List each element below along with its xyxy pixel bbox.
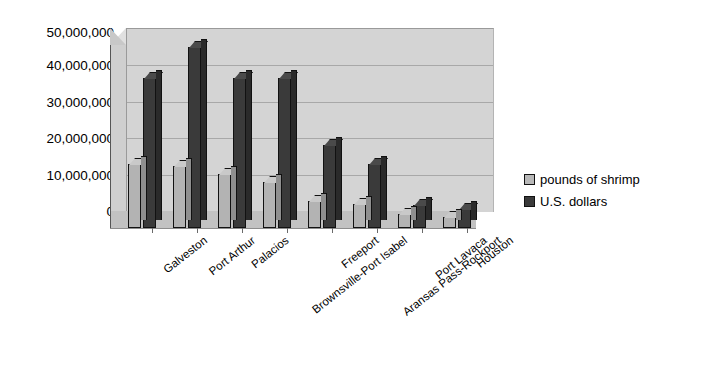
bar-side-face (291, 70, 297, 220)
bar-pounds (443, 217, 456, 228)
plot-floor-front-edge (110, 228, 476, 229)
y-tick-label-5: 0 (18, 205, 114, 218)
bar-group (308, 45, 353, 228)
bar-pounds (218, 174, 231, 228)
bar-side-face (366, 196, 372, 220)
x-axis-label-freeport: Freeport (339, 234, 381, 270)
bar-group (173, 45, 218, 228)
x-axis-label-galveston: Galveston (161, 234, 209, 275)
x-axis-label-houston: Houston (474, 234, 515, 270)
bar-side-face (141, 156, 147, 220)
bar-side-face (411, 206, 417, 220)
y-tick-label-4: 10,000,000 (18, 169, 114, 182)
bar-pounds (398, 214, 411, 228)
x-axis-label-palacios: Palacios (249, 234, 291, 270)
bar-group (218, 45, 263, 228)
y-axis-tick-labels: 50,000,000 40,000,000 30,000,000 20,000,… (18, 26, 114, 218)
bar-side-face (456, 209, 462, 220)
legend-item-us-dollars: U.S. dollars (524, 194, 694, 209)
plot-area (110, 28, 492, 228)
x-axis-label-port-arthur: Port Arthur (207, 234, 258, 277)
bar-side-face (321, 193, 327, 220)
legend-label-us-dollars: U.S. dollars (540, 195, 607, 209)
y-tick-label-1: 40,000,000 (18, 59, 114, 72)
bar-pounds (308, 201, 321, 228)
bar-side-face (276, 174, 282, 220)
light-gray-swatch-icon (524, 174, 535, 185)
bar-pounds (353, 204, 366, 228)
bar-side-face (471, 201, 477, 220)
bar-side-face (381, 156, 387, 220)
x-axis-label-port-lavaca: Port Lavaca (433, 234, 489, 281)
plot-left-wall-bevel (110, 28, 126, 45)
bar-side-face (156, 70, 162, 220)
bar-group (353, 45, 398, 228)
y-tick-label-2: 30,000,000 (18, 96, 114, 109)
legend-item-pounds-of-shrimp: pounds of shrimp (524, 172, 694, 187)
bar-pounds (173, 166, 186, 228)
dark-gray-swatch-icon (524, 196, 535, 207)
bar-pounds (263, 182, 276, 228)
bar-side-face (426, 197, 432, 220)
bar-group (263, 45, 308, 228)
bar-group (443, 45, 488, 228)
bar-side-face (336, 137, 342, 220)
bar-group (128, 45, 173, 228)
legend-label-pounds-of-shrimp: pounds of shrimp (540, 173, 640, 187)
x-axis-label-brownsville-port-isabel: Brownsville-Port Isabel (310, 234, 410, 315)
bar-side-face (201, 39, 207, 220)
chart-legend: pounds of shrimp U.S. dollars (524, 172, 694, 216)
bars-layer (110, 45, 492, 228)
y-tick-label-0: 50,000,000 (18, 26, 114, 39)
shrimp-landings-bar-chart: 50,000,000 40,000,000 30,000,000 20,000,… (0, 0, 701, 376)
bar-side-face (186, 158, 192, 220)
bar-pounds (128, 164, 141, 228)
y-tick-label-3: 20,000,000 (18, 132, 114, 145)
x-axis-label-aransas-pass-rockport: Aransas Pass-Rockport (401, 234, 504, 318)
bar-side-face (231, 166, 237, 220)
bar-side-face (246, 70, 252, 220)
bar-group (398, 45, 443, 228)
